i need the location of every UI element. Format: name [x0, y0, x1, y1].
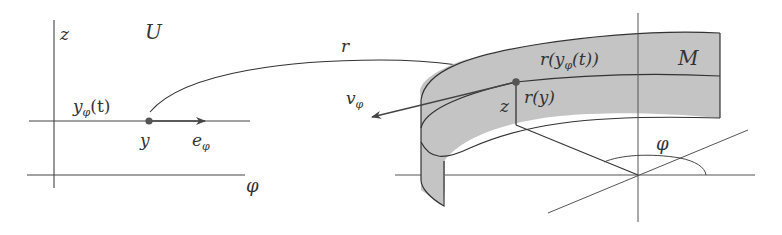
angle-phi-label: φ — [656, 133, 669, 154]
phi-axis-label: φ — [246, 175, 259, 196]
map-r-label: r — [341, 36, 350, 56]
diagram-canvas: z U yφ(t) y eφ φ r — [0, 0, 782, 235]
point-y-label: y — [139, 130, 150, 150]
image-point-label: r(y) — [524, 87, 555, 107]
z-axis-label: z — [59, 24, 70, 44]
right-panel-M: r(yφ(t)) M r(y) z φ vφ — [346, 13, 755, 222]
region-U-label: U — [145, 20, 163, 44]
point-y — [145, 117, 152, 124]
left-panel-U: z U yφ(t) y eφ φ — [27, 20, 259, 196]
angle-phi-arc — [604, 155, 706, 175]
surface-M-label: M — [677, 46, 699, 70]
curve-y-phi-label: yφ(t) — [72, 96, 110, 119]
point-r-y — [512, 78, 520, 86]
ground-diagonal-axis — [548, 130, 748, 213]
radial-line — [516, 125, 638, 175]
e-phi-label: eφ — [192, 130, 210, 153]
height-z-label: z — [499, 96, 510, 116]
v-phi-label: vφ — [346, 88, 364, 111]
